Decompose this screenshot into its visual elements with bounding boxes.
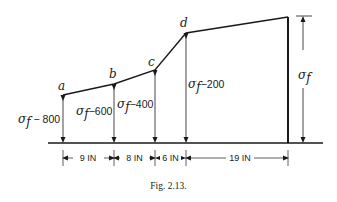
dim-label-9in: 9 IN [80,153,97,163]
figure-caption: Fig. 2.13. [0,181,337,191]
point-label-b: b [109,67,117,81]
dim-label-8in: 8 IN [126,153,143,163]
stress-label-d: σf−200 [188,77,224,94]
point-label-c: c [148,55,155,69]
point-label-d: d [180,16,188,30]
dim-arrow-6in-left [155,156,160,160]
stress-profile-line [63,17,288,95]
sigma-f-label: σf [298,68,313,85]
stress-label-a: σf − 800 [18,112,60,129]
dim-label-19in: 19 IN [229,153,251,163]
stress-diagram: a b c d σf − 800 σf−600 σf−400 σf−200 σf… [0,0,337,202]
stress-label-b: σf−600 [76,104,112,121]
dim-arrow-6in-right [181,156,186,160]
point-label-a: a [58,79,65,93]
dim-label-6in: 6 IN [162,153,179,163]
stress-label-c: σf−400 [117,97,153,114]
